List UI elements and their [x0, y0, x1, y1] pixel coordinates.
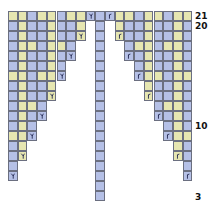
chart-cell — [86, 11, 96, 21]
chart-cell — [173, 71, 183, 81]
chart-cell — [183, 121, 193, 131]
chart-cell — [173, 131, 183, 141]
ssk-symbol-icon — [67, 52, 75, 60]
chart-cell — [154, 31, 164, 41]
chart-cell — [95, 61, 105, 71]
k2tog-symbol-icon — [174, 152, 182, 160]
chart-cell — [27, 81, 37, 91]
chart-cell — [95, 101, 105, 111]
chart-cell — [183, 151, 193, 161]
chart-cell — [18, 41, 28, 51]
chart-cell — [57, 11, 67, 21]
chart-cell — [95, 41, 105, 51]
row-number-label: 10 — [195, 121, 208, 131]
chart-cell — [8, 111, 18, 121]
chart-cell — [163, 101, 173, 111]
chart-cell — [173, 41, 183, 51]
k2tog-symbol-icon — [155, 112, 163, 120]
chart-cell — [173, 111, 183, 121]
chart-cell — [18, 131, 28, 141]
chart-cell — [183, 71, 193, 81]
chart-cell — [124, 11, 134, 21]
chart-cell — [154, 111, 164, 121]
chart-cell — [134, 41, 144, 51]
chart-cell — [134, 31, 144, 41]
chart-cell — [95, 11, 105, 21]
chart-cell — [37, 61, 47, 71]
k2tog-symbol-icon — [106, 12, 114, 20]
chart-cell — [163, 131, 173, 141]
chart-cell — [27, 41, 37, 51]
chart-cell — [183, 21, 193, 31]
chart-cell — [8, 171, 18, 181]
chart-cell — [47, 11, 57, 21]
chart-cell — [144, 51, 154, 61]
chart-cell — [37, 41, 47, 51]
chart-cell — [18, 31, 28, 41]
chart-cell — [144, 91, 154, 101]
chart-cell — [173, 51, 183, 61]
chart-cell — [183, 161, 193, 171]
chart-cell — [154, 91, 164, 101]
chart-cell — [8, 61, 18, 71]
chart-cell — [154, 51, 164, 61]
chart-cell — [173, 61, 183, 71]
chart-cell — [47, 91, 57, 101]
chart-cell — [27, 51, 37, 61]
chart-cell — [95, 151, 105, 161]
chart-cell — [95, 191, 105, 201]
ssk-symbol-icon — [19, 152, 27, 160]
chart-cell — [66, 31, 76, 41]
chart-cell — [134, 11, 144, 21]
chart-cell — [95, 181, 105, 191]
chart-cell — [183, 61, 193, 71]
chart-cell — [95, 131, 105, 141]
chart-cell — [163, 81, 173, 91]
chart-cell — [18, 51, 28, 61]
chart-cell — [163, 11, 173, 21]
ssk-symbol-icon — [77, 32, 85, 40]
chart-cell — [8, 141, 18, 151]
chart-cell — [144, 41, 154, 51]
chart-cell — [95, 51, 105, 61]
chart-cell — [115, 31, 125, 41]
chart-cell — [37, 81, 47, 91]
chart-cell — [18, 121, 28, 131]
chart-cell — [8, 151, 18, 161]
chart-cell — [163, 61, 173, 71]
ssk-symbol-icon — [38, 112, 46, 120]
chart-cell — [163, 51, 173, 61]
chart-cell — [183, 11, 193, 21]
chart-cell — [134, 61, 144, 71]
chart-cell — [27, 71, 37, 81]
chart-cell — [47, 31, 57, 41]
chart-cell — [8, 131, 18, 141]
chart-cell — [183, 111, 193, 121]
chart-cell — [124, 41, 134, 51]
chart-cell — [154, 81, 164, 91]
chart-cell — [27, 91, 37, 101]
row-number-label: 3 — [195, 192, 201, 202]
chart-cell — [163, 111, 173, 121]
chart-cell — [57, 71, 67, 81]
chart-cell — [95, 91, 105, 101]
chart-cell — [47, 71, 57, 81]
chart-cell — [173, 21, 183, 31]
chart-cell — [163, 71, 173, 81]
chart-cell — [163, 91, 173, 101]
chart-cell — [134, 51, 144, 61]
row-number-label: 20 — [195, 21, 208, 31]
chart-cell — [124, 51, 134, 61]
chart-cell — [18, 151, 28, 161]
chart-cell — [47, 61, 57, 71]
ssk-symbol-icon — [58, 72, 66, 80]
chart-cell — [144, 21, 154, 31]
chart-cell — [76, 31, 86, 41]
chart-cell — [18, 81, 28, 91]
chart-cell — [124, 21, 134, 31]
chart-cell — [95, 21, 105, 31]
chart-cell — [95, 161, 105, 171]
chart-cell — [66, 51, 76, 61]
chart-cell — [95, 31, 105, 41]
chart-cell — [144, 71, 154, 81]
